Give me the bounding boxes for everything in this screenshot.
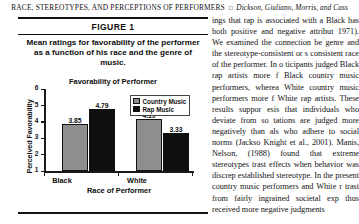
y-tick-label-1: 1 [35,166,39,173]
legend-swatch-rap-icon [133,106,140,112]
x-group-label-white: White [107,176,167,185]
y-tick-label-4: 4 [35,117,39,124]
bar-black-rap: 4.79 [89,109,115,171]
chart-title: Favorability of Performer [18,77,208,86]
y-tick-label-5: 5 [35,101,39,108]
bar-white-country: 4.19 [136,119,162,171]
bar-white-rap: 3.33 [163,133,189,171]
running-head: RACE, STEREOTYPES, AND PERCEPTIONS OF PE… [0,0,359,15]
chart-y-axis-label: Perceived Favorability [25,93,34,179]
body-paragraph: ings that rap is associated with a Black… [212,15,359,215]
running-head-authors: Dickson, Giuliano, Morris, and Cass [236,3,348,12]
y-tick-label-3: 3 [35,133,39,140]
bar-value-black-country: 3.85 [68,117,81,124]
square-bullet-icon: □ [229,4,233,11]
legend-item-rap: Rap Music [133,105,186,113]
legend-label-country: Country Music [143,98,187,105]
running-head-title: RACE, STEREOTYPES, AND PERCEPTIONS OF PE… [11,3,225,12]
figure-caption: Mean ratings for favorability of the per… [18,35,208,73]
chart-x-axis-label: Race of Performer [44,186,194,195]
figure-bottom-rule [18,212,208,214]
bar-black-country: 3.85 [62,124,88,171]
bar-chart: Favorability of Performer Perceived Favo… [18,74,208,210]
y-tick-label-2: 2 [35,150,39,157]
figure-label: FIGURE 1 [18,19,208,34]
figure-block: FIGURE 1 Mean ratings for favorability o… [18,17,208,221]
bar-value-black-rap: 4.79 [95,102,108,109]
bar-value-white-rap: 3.33 [169,126,182,133]
chart-legend: Country Music Rap Music [130,95,190,116]
legend-label-rap: Rap Music [143,106,175,113]
body-text-column: ings that rap is associated with a Black… [212,15,359,224]
legend-item-country: Country Music [133,97,186,105]
x-tick-right [192,172,193,176]
legend-swatch-country-icon [133,98,140,104]
x-group-label-black: Black [32,176,92,185]
y-tick-label-6: 6 [35,84,39,91]
